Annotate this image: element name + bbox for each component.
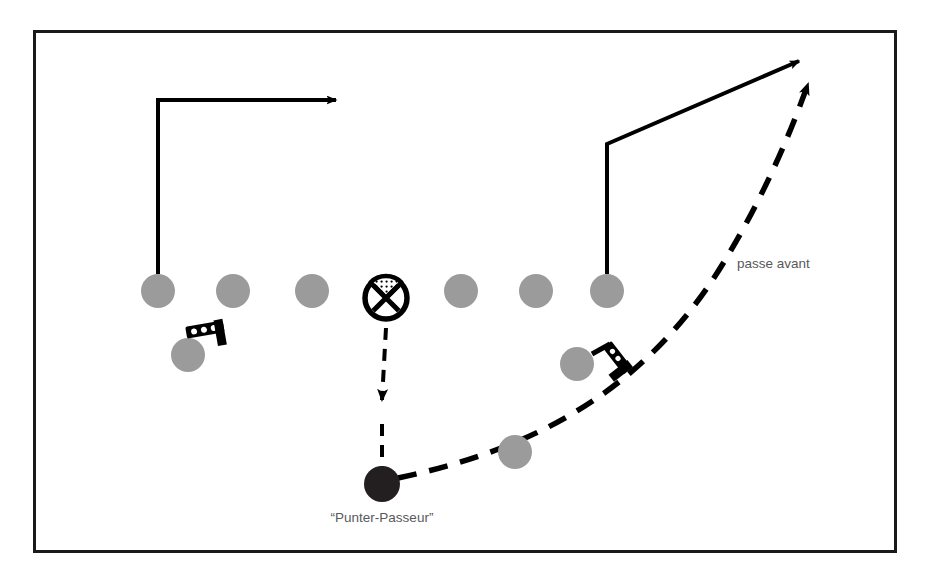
back-right-blocker (560, 347, 594, 381)
lineman-3 (295, 274, 329, 308)
lineman-5 (519, 274, 553, 308)
passe-avant-label: passe avant (737, 256, 810, 271)
play-diagram-canvas: “Punter-Passeur” passe avant (0, 0, 926, 578)
lineman-2 (216, 274, 250, 308)
back-left-blocker (171, 338, 205, 372)
lineman-6 (590, 274, 624, 308)
center-snapper-icon (365, 276, 407, 319)
punter-passeur-label: “Punter-Passeur” (331, 510, 434, 525)
lineman-1 (141, 274, 175, 308)
lineman-4 (444, 274, 478, 308)
punter-passeur (364, 466, 400, 502)
play-diagram: “Punter-Passeur” passe avant (0, 0, 926, 578)
back-protector (498, 435, 532, 469)
